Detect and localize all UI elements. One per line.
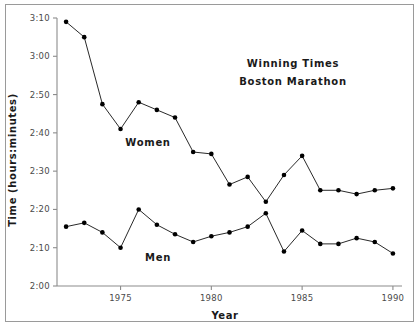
data-point-men-1977	[155, 222, 160, 227]
y-tick-label: 3:10	[30, 13, 50, 23]
data-point-men-1984	[282, 249, 287, 254]
x-tick-label: 1975	[109, 293, 132, 303]
x-axis-ticks: 1975198019851990	[109, 286, 404, 303]
data-point-women-1978	[173, 115, 178, 120]
y-tick-label: 2:30	[30, 166, 50, 176]
data-line-women	[66, 22, 393, 202]
data-point-women-1972	[64, 20, 69, 25]
data-point-women-1982	[245, 175, 250, 180]
chart-title-line-2: Boston Marathon	[239, 76, 346, 87]
data-point-women-1981	[227, 182, 232, 187]
data-point-women-1983	[264, 199, 269, 204]
chart-plot-area: 3:103:002:502:402:302:202:102:00 1975198…	[0, 0, 419, 332]
data-point-men-1978	[173, 232, 178, 237]
data-point-men-1983	[264, 211, 269, 216]
y-axis-title: Time (hours:minutes)	[7, 93, 18, 227]
data-point-women-1979	[191, 150, 196, 155]
data-point-men-1980	[209, 234, 214, 239]
data-point-men-1972	[64, 224, 69, 229]
x-tick-label: 1990	[381, 293, 404, 303]
series-label-men: Men	[145, 252, 171, 263]
data-point-men-1987	[336, 242, 341, 247]
data-point-women-1974	[100, 102, 105, 107]
x-axis-title: Year	[210, 310, 238, 321]
data-point-men-1974	[100, 230, 105, 235]
data-series-group	[64, 20, 395, 256]
data-point-women-1990	[391, 186, 396, 191]
y-axis-ticks: 3:103:002:502:402:302:202:102:00	[30, 13, 57, 291]
data-point-women-1989	[372, 188, 377, 193]
data-point-men-1986	[318, 242, 323, 247]
data-point-men-1985	[300, 228, 305, 233]
chart-title-line-1: Winning Times	[247, 58, 339, 69]
y-tick-label: 2:10	[30, 243, 50, 253]
data-point-women-1973	[82, 35, 87, 40]
data-point-women-1986	[318, 188, 323, 193]
data-point-men-1975	[118, 245, 123, 250]
data-point-men-1982	[245, 224, 250, 229]
y-tick-label: 2:40	[30, 128, 50, 138]
data-point-women-1985	[300, 154, 305, 159]
data-point-women-1988	[354, 192, 359, 197]
data-point-women-1984	[282, 173, 287, 178]
data-point-women-1987	[336, 188, 341, 193]
data-point-men-1990	[391, 251, 396, 256]
y-tick-label: 3:00	[30, 51, 50, 61]
y-tick-label: 2:20	[30, 204, 50, 214]
data-point-men-1981	[227, 230, 232, 235]
data-point-women-1980	[209, 152, 214, 157]
data-point-women-1977	[155, 108, 160, 113]
data-point-women-1976	[136, 100, 141, 105]
data-point-men-1989	[372, 240, 377, 245]
data-point-men-1973	[82, 221, 87, 226]
data-point-women-1975	[118, 127, 123, 132]
y-tick-label: 2:50	[30, 90, 50, 100]
data-point-men-1988	[354, 236, 359, 241]
series-label-women: Women	[125, 137, 170, 148]
x-tick-label: 1985	[291, 293, 314, 303]
x-tick-label: 1980	[200, 293, 223, 303]
data-point-men-1979	[191, 240, 196, 245]
data-point-men-1976	[136, 207, 141, 212]
figure-container: 3:103:002:502:402:302:202:102:00 1975198…	[0, 0, 419, 332]
y-tick-label: 2:00	[30, 281, 50, 291]
